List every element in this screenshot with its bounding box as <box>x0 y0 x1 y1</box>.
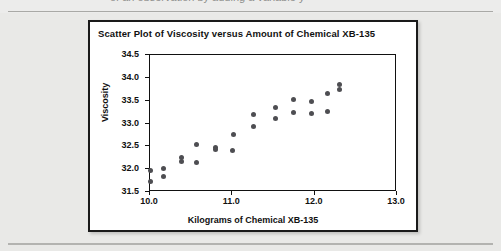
plot-area <box>149 54 396 191</box>
clipped-text: of an observation by adding a variable y <box>110 0 304 3</box>
data-point <box>231 132 236 137</box>
data-point <box>230 148 235 153</box>
x-axis-tick-label: 13.0 <box>387 196 405 206</box>
data-point <box>337 82 342 87</box>
data-point <box>273 116 278 121</box>
data-point <box>179 159 184 164</box>
data-point <box>309 99 314 104</box>
data-point <box>194 142 199 147</box>
x-axis-title: Kilograms of Chemical XB-135 <box>90 215 416 225</box>
page-bottom-rule <box>8 243 493 245</box>
data-point <box>194 160 199 165</box>
chart-title: Scatter Plot of Viscosity versus Amount … <box>98 28 412 39</box>
x-axis-tick-mark <box>396 191 397 195</box>
y-axis-tick-mark <box>145 123 149 124</box>
data-point <box>161 174 166 179</box>
y-axis-tick-label: 33.0 <box>121 118 139 128</box>
y-axis-tick-mark <box>145 145 149 146</box>
data-point <box>337 87 342 92</box>
y-axis-tick-label: 34.5 <box>121 49 139 59</box>
y-axis-tick-label: 31.5 <box>121 186 139 196</box>
data-point <box>291 110 296 115</box>
y-axis-tick-mark <box>145 77 149 78</box>
data-point <box>148 168 153 173</box>
data-point <box>273 105 278 110</box>
scatter-plot-figure: Scatter Plot of Viscosity versus Amount … <box>88 20 418 232</box>
y-axis-tick-label: 34.0 <box>121 72 139 82</box>
data-point <box>251 112 256 117</box>
data-point <box>161 166 166 171</box>
x-axis-tick-mark <box>231 191 232 195</box>
y-axis-tick-mark <box>145 168 149 169</box>
y-axis-title: Viscosity <box>100 83 110 122</box>
data-point <box>309 111 314 116</box>
data-point <box>251 124 256 129</box>
y-axis-tick-mark <box>145 54 149 55</box>
data-point <box>213 147 218 152</box>
page-top-clipped-line: of an observation by adding a variable y <box>0 0 501 13</box>
data-point <box>325 91 330 96</box>
x-axis-tick-label: 12.0 <box>305 196 323 206</box>
x-axis-tick-label: 10.0 <box>140 196 158 206</box>
data-point <box>291 97 296 102</box>
y-axis-tick-label: 32.5 <box>121 140 139 150</box>
data-point <box>148 179 153 184</box>
y-axis-tick-label: 32.0 <box>121 163 139 173</box>
horizontal-rule <box>8 11 493 12</box>
x-axis-tick-mark <box>314 191 315 195</box>
x-axis-tick-mark <box>149 191 150 195</box>
y-axis-tick-mark <box>145 100 149 101</box>
x-axis-tick-label: 11.0 <box>223 196 240 206</box>
y-axis-tick-label: 33.5 <box>121 95 139 105</box>
data-point <box>325 109 330 114</box>
